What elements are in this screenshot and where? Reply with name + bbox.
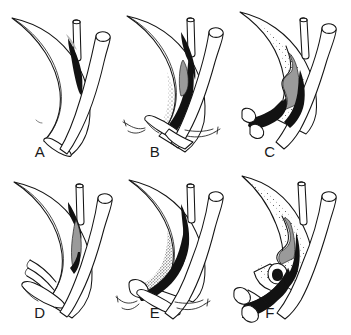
suture-thread-left bbox=[127, 124, 145, 129]
vertical-tube-rim bbox=[300, 18, 307, 21]
open-tube-end-upper bbox=[242, 108, 256, 122]
panel-b: B bbox=[123, 16, 223, 160]
diagonal-tube-rim bbox=[322, 192, 336, 202]
diagonal-tube-rim bbox=[209, 28, 223, 38]
surgical-illustration-svg: A bbox=[0, 0, 351, 335]
suture-needle-left bbox=[116, 296, 120, 302]
suture-needle-right bbox=[215, 127, 220, 134]
panel-a: A bbox=[12, 18, 110, 160]
figure-container: A bbox=[0, 0, 351, 335]
panel-label-d: D bbox=[34, 304, 45, 321]
panel-label-c: C bbox=[264, 143, 275, 160]
flap-edge-connector-1 bbox=[27, 260, 30, 268]
diagonal-tube-rim bbox=[98, 194, 112, 204]
vertical-narrow-tube bbox=[300, 18, 309, 59]
diagonal-tube-rim bbox=[322, 24, 336, 34]
suture-needle-left bbox=[123, 120, 127, 126]
vertical-tube-rim bbox=[187, 18, 194, 21]
suture-thread-left-2 bbox=[122, 304, 139, 310]
panel-f: F bbox=[234, 176, 337, 322]
vertical-narrow-tube bbox=[187, 184, 195, 223]
suture-thread-left bbox=[120, 300, 137, 303]
lumen-slit bbox=[36, 120, 42, 123]
vertical-tube-rim bbox=[187, 184, 194, 187]
panel-d: D bbox=[14, 182, 112, 321]
suture-needle-right bbox=[205, 299, 210, 306]
panel-label-a: A bbox=[35, 143, 46, 160]
vertical-tube-rim bbox=[73, 20, 80, 23]
flap-edge-connector-2 bbox=[25, 268, 28, 276]
suture-thread-left-2 bbox=[128, 130, 145, 133]
vertical-tube-rim bbox=[298, 182, 305, 185]
vertical-tube-rim bbox=[76, 184, 83, 187]
diagonal-tube-rim bbox=[209, 192, 223, 202]
panel-label-b: B bbox=[150, 143, 161, 160]
vertical-narrow-tube bbox=[298, 182, 307, 225]
panel-label-e: E bbox=[150, 304, 161, 321]
panel-label-f: F bbox=[265, 304, 275, 321]
diagonal-tube-rim bbox=[96, 32, 110, 42]
panel-c: C bbox=[240, 12, 336, 160]
panel-e: E bbox=[116, 180, 223, 321]
vertical-narrow-tube bbox=[76, 184, 84, 225]
